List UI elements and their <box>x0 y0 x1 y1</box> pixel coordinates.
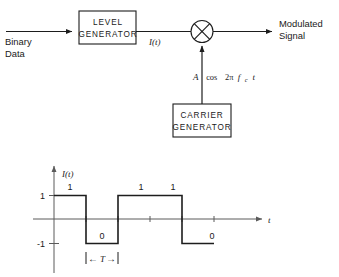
carrier-frequency: f <box>238 72 242 82</box>
carrier-time-variable: t <box>252 72 255 82</box>
modulated-signal-label-line2: Signal <box>279 30 305 41</box>
level-generator-label-line2: GENERATOR <box>78 30 137 39</box>
svg-text:A cos 2π: A cos 2π f c t <box>192 66 255 85</box>
carrier-generator-label-line1: CARRIER <box>180 111 223 120</box>
text-layer: Binary Data LEVEL GENERATOR CARRIER GENE… <box>0 0 339 277</box>
waveform-y-tick-negative: -1 <box>37 239 45 249</box>
waveform-y-axis-label: I(t) <box>61 169 74 179</box>
bit-label-4: 0 <box>209 231 214 241</box>
bit-label-0: 1 <box>67 182 72 192</box>
period-left-arrow-icon: ← <box>88 253 98 264</box>
period-right-arrow-icon: → <box>106 253 116 264</box>
carrier-function: cos <box>206 73 217 82</box>
carrier-amplitude: A <box>192 72 199 82</box>
bit-label-1: 0 <box>99 231 104 241</box>
binary-data-label-line1: Binary <box>5 36 32 47</box>
waveform-y-tick-positive: 1 <box>40 191 45 201</box>
binary-data-label-line2: Data <box>5 48 26 59</box>
bit-label-2: 1 <box>138 182 143 192</box>
bit-label-3: 1 <box>170 182 175 192</box>
level-generator-label-line1: LEVEL <box>93 18 123 27</box>
period-marker-annotation: ← T → <box>88 253 116 264</box>
carrier-argument-prefix: 2π <box>225 73 234 82</box>
waveform-x-axis-label: t <box>268 215 271 225</box>
carrier-expression: A cos 2π f c t <box>192 66 255 85</box>
figure-container: Binary Data LEVEL GENERATOR CARRIER GENE… <box>0 0 339 277</box>
carrier-generator-label-line2: GENERATOR <box>172 123 231 132</box>
level-generator-signal-label: I(t) <box>148 37 161 47</box>
modulated-signal-label-line1: Modulated <box>279 18 323 29</box>
carrier-frequency-subscript: c <box>245 76 248 83</box>
